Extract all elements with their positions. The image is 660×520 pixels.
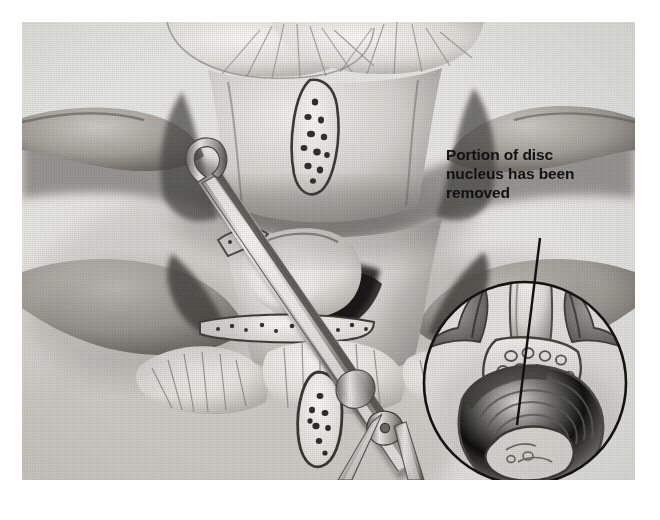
caption-text: Portion of disc nucleus has been removed xyxy=(446,146,631,202)
inset-cross-section-artwork xyxy=(22,22,635,480)
illustration-page: Portion of disc nucleus has been removed xyxy=(0,0,660,520)
caption-line-2: nucleus has been xyxy=(446,165,631,184)
caption-line-3: removed xyxy=(446,184,631,203)
caption-line-1: Portion of disc xyxy=(446,146,631,165)
illustration-plate xyxy=(22,22,635,480)
